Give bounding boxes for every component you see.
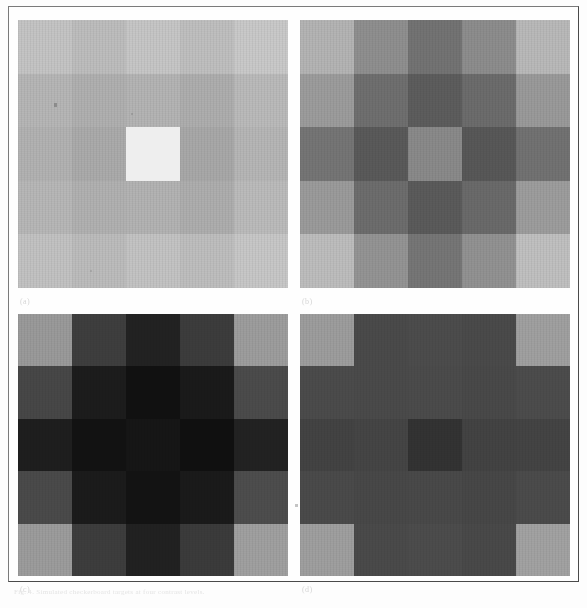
checker-cell bbox=[180, 314, 234, 366]
checker-cell bbox=[462, 181, 516, 235]
checker-cell bbox=[462, 20, 516, 74]
figure-caption: Fig. 4. Simulated checkerboard targets a… bbox=[14, 588, 534, 597]
checker-cell bbox=[408, 20, 462, 74]
checker-cell bbox=[72, 20, 126, 74]
checker-cell bbox=[354, 419, 408, 471]
checker-cell bbox=[126, 419, 180, 471]
checker-cell bbox=[18, 366, 72, 418]
checker-cell bbox=[126, 471, 180, 523]
center-patch-a bbox=[126, 127, 180, 181]
checker-cell bbox=[354, 20, 408, 74]
checker-cell bbox=[462, 419, 516, 471]
checker-cell bbox=[516, 314, 570, 366]
checker-cell bbox=[18, 234, 72, 288]
checker-cell bbox=[516, 181, 570, 235]
checkerboard-b bbox=[300, 20, 570, 288]
scan-speck bbox=[295, 504, 298, 507]
checker-cell bbox=[408, 74, 462, 128]
checker-cell bbox=[408, 471, 462, 523]
checker-cell bbox=[462, 127, 516, 181]
checker-cell bbox=[516, 419, 570, 471]
figure-panel-grid: (a) (b) (c) (d) bbox=[18, 20, 570, 576]
checker-cell bbox=[516, 74, 570, 128]
panel-label-a: (a) bbox=[20, 297, 30, 307]
checker-cell bbox=[234, 181, 288, 235]
checker-cell bbox=[408, 181, 462, 235]
checker-cell bbox=[354, 181, 408, 235]
checker-cell bbox=[18, 419, 72, 471]
figure-panel-b: (b) bbox=[300, 20, 570, 288]
scan-speck bbox=[131, 113, 133, 115]
checker-cell bbox=[300, 234, 354, 288]
checker-cell bbox=[300, 314, 354, 366]
checker-cell bbox=[408, 366, 462, 418]
checker-cell bbox=[300, 74, 354, 128]
checker-cell bbox=[180, 234, 234, 288]
checker-cell bbox=[180, 471, 234, 523]
checker-cell bbox=[354, 524, 408, 576]
checker-cell bbox=[462, 314, 516, 366]
checker-cell bbox=[180, 366, 234, 418]
checker-cell bbox=[234, 524, 288, 576]
checker-cell bbox=[516, 471, 570, 523]
checker-cell bbox=[180, 181, 234, 235]
figure-panel-a: (a) bbox=[18, 20, 288, 288]
checker-cell bbox=[300, 419, 354, 471]
checker-cell bbox=[18, 471, 72, 523]
checker-cell bbox=[126, 74, 180, 128]
scan-speck bbox=[54, 103, 57, 107]
checker-cell bbox=[408, 419, 462, 471]
checker-cell bbox=[300, 366, 354, 418]
checker-cell bbox=[462, 524, 516, 576]
checker-cell bbox=[180, 74, 234, 128]
checker-cell bbox=[126, 314, 180, 366]
checker-cell bbox=[516, 20, 570, 74]
checker-cell bbox=[408, 127, 462, 181]
checker-cell bbox=[18, 314, 72, 366]
checker-cell bbox=[180, 524, 234, 576]
checker-cell bbox=[300, 471, 354, 523]
checker-cell bbox=[408, 314, 462, 366]
checkerboard-d bbox=[300, 314, 570, 576]
checker-cell bbox=[18, 127, 72, 181]
checker-cell bbox=[18, 20, 72, 74]
checker-cell bbox=[234, 74, 288, 128]
checker-cell bbox=[18, 74, 72, 128]
checker-cell bbox=[18, 524, 72, 576]
checker-cell bbox=[72, 181, 126, 235]
checker-cell bbox=[234, 366, 288, 418]
checker-cell bbox=[72, 314, 126, 366]
checker-cell bbox=[516, 127, 570, 181]
checker-cell bbox=[516, 234, 570, 288]
checker-cell bbox=[354, 234, 408, 288]
checker-cell bbox=[234, 234, 288, 288]
checker-cell bbox=[462, 74, 516, 128]
scanned-page: (a) (b) (c) (d) Fig. 4. Simulated checke… bbox=[0, 0, 587, 608]
checker-cell bbox=[234, 419, 288, 471]
checker-cell bbox=[516, 524, 570, 576]
checker-cell bbox=[72, 471, 126, 523]
checker-cell bbox=[300, 524, 354, 576]
checker-cell bbox=[300, 127, 354, 181]
checker-cell bbox=[234, 471, 288, 523]
figure-panel-c: (c) bbox=[18, 314, 288, 576]
checker-cell bbox=[72, 74, 126, 128]
checker-cell bbox=[126, 181, 180, 235]
checker-cell bbox=[72, 234, 126, 288]
checkerboard-c bbox=[18, 314, 288, 576]
checker-cell bbox=[72, 419, 126, 471]
checker-cell bbox=[18, 181, 72, 235]
checker-cell bbox=[126, 234, 180, 288]
checker-cell bbox=[354, 314, 408, 366]
checker-cell bbox=[462, 234, 516, 288]
panel-label-b: (b) bbox=[302, 297, 313, 307]
checker-cell bbox=[126, 524, 180, 576]
figure-panel-d: (d) bbox=[300, 314, 570, 576]
checker-cell bbox=[354, 366, 408, 418]
checker-cell bbox=[354, 74, 408, 128]
checker-cell bbox=[72, 127, 126, 181]
checker-cell bbox=[72, 366, 126, 418]
checker-cell bbox=[516, 366, 570, 418]
checker-cell bbox=[234, 314, 288, 366]
checker-cell bbox=[126, 366, 180, 418]
